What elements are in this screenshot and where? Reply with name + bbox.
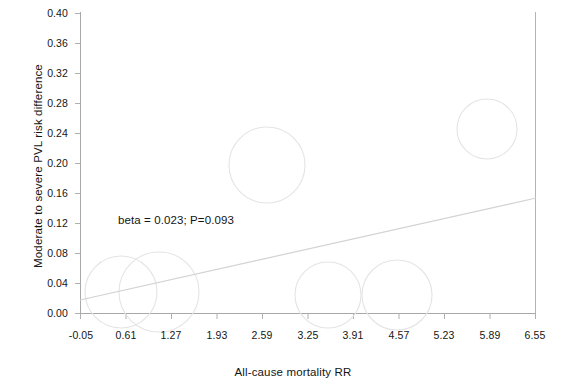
- regression-annotation: beta = 0.023; P=0.093: [118, 214, 234, 226]
- y-axis-title: Moderate to severe PVL risk difference: [32, 36, 44, 296]
- x-tick-label: 3.91: [343, 329, 364, 341]
- x-axis-title: All-cause mortality RR: [0, 366, 586, 378]
- y-tick-label: 0.36: [42, 37, 68, 49]
- y-tick-label: 0.40: [42, 7, 68, 19]
- x-tick-label: 2.59: [252, 329, 273, 341]
- x-tick-label: -0.05: [69, 329, 93, 341]
- x-tick-label: 1.93: [207, 329, 228, 341]
- x-tick-label: 0.61: [116, 329, 137, 341]
- x-tick-label: 6.55: [525, 329, 546, 341]
- y-tick-label: 0.20: [42, 157, 68, 169]
- x-tick-label: 5.23: [434, 329, 455, 341]
- y-tick-label: 0.32: [42, 67, 68, 79]
- x-tick-label: 5.89: [480, 329, 501, 341]
- scatter-plot-figure: 0.40 0.36 0.32 0.28 0.24 0.20 0.16 0.12 …: [0, 0, 586, 390]
- y-tick-label: 0.16: [42, 187, 68, 199]
- x-tick-label: 1.27: [161, 329, 182, 341]
- y-tick-label: 0.12: [42, 217, 68, 229]
- y-tick-label: 0.08: [42, 247, 68, 259]
- x-tick-label: 3.25: [298, 329, 319, 341]
- y-tick-label: 0.24: [42, 127, 68, 139]
- y-tick-label: 0.00: [42, 307, 68, 319]
- y-tick-label: 0.04: [42, 277, 68, 289]
- y-tick-label: 0.28: [42, 97, 68, 109]
- x-tick-label: 4.57: [389, 329, 410, 341]
